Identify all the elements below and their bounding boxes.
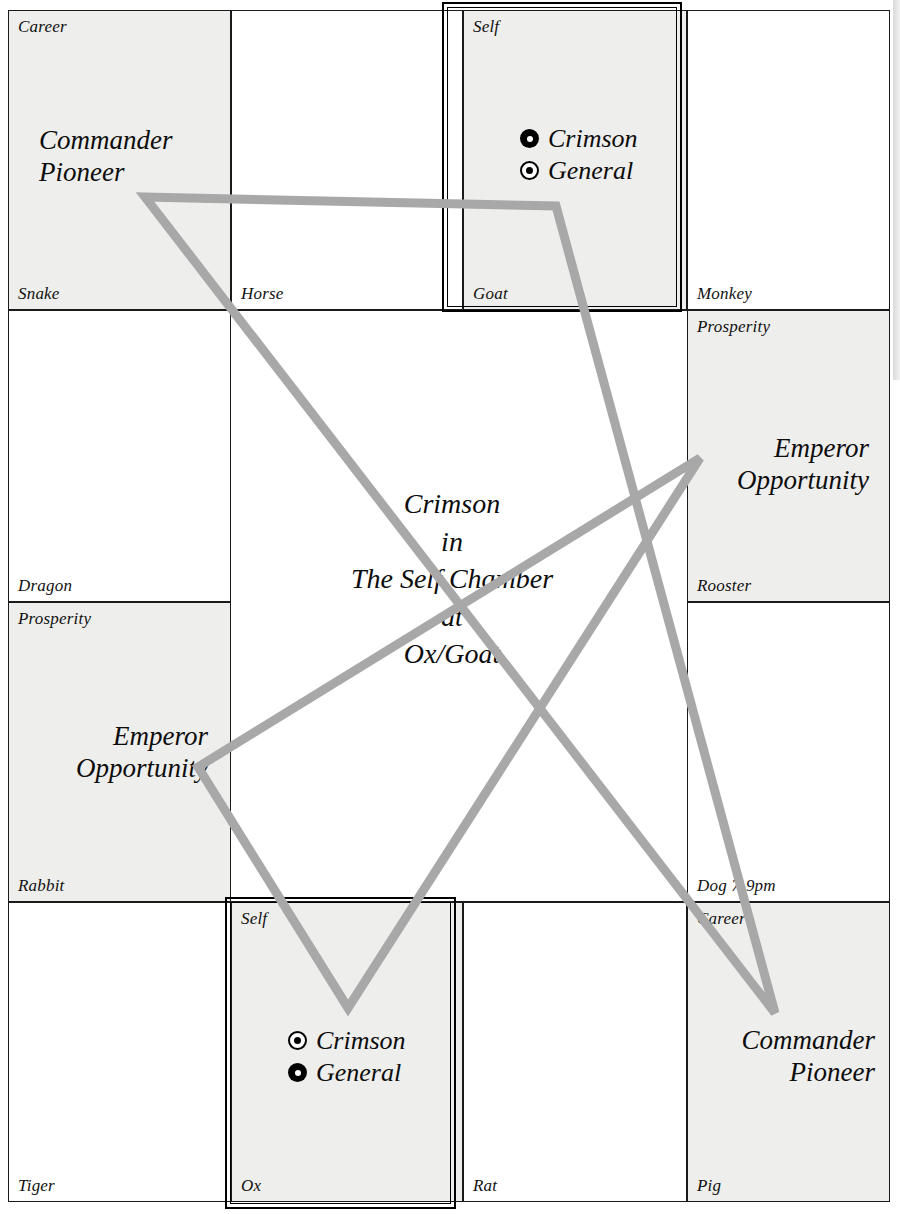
palace-stars-pig: Commander Pioneer [688, 1025, 889, 1089]
marker-label: Crimson [548, 123, 638, 155]
palace-bottom-label-pig: Pig [697, 1176, 721, 1196]
palace-cell-snake[interactable]: Career Commander Pioneer Snake [8, 10, 231, 310]
palace-cell-dragon[interactable]: Dragon [8, 310, 231, 602]
palace-top-label-rooster: Prosperity [697, 317, 770, 337]
palace-stars-rooster: Emperor Opportunity [688, 433, 889, 497]
palace-top-label-rabbit: Prosperity [18, 609, 91, 629]
palace-cell-rabbit[interactable]: Prosperity Emperor Opportunity Rabbit [8, 602, 231, 902]
palace-bottom-label-ox: Ox [241, 1176, 261, 1196]
palace-cell-tiger[interactable]: Tiger [8, 902, 231, 1202]
marker-filled-ring-icon [520, 129, 539, 148]
marker-label: General [548, 155, 633, 187]
palace-bottom-label-rat: Rat [473, 1176, 497, 1196]
palace-bottom-label-monkey: Monkey [697, 284, 752, 304]
palace-bottom-label-rabbit: Rabbit [18, 876, 65, 896]
palace-bottom-label-tiger: Tiger [18, 1176, 55, 1196]
palace-top-label-ox: Self [241, 909, 267, 929]
marker-outline-dot-icon [520, 161, 539, 180]
palace-stars-rabbit: Emperor Opportunity [9, 721, 230, 785]
palace-cell-dog[interactable]: Dog 7-9pm [687, 602, 890, 902]
marker-filled-ring-icon [288, 1063, 307, 1082]
palace-bottom-label-rooster: Rooster [697, 576, 751, 596]
palace-cell-rooster[interactable]: Prosperity Emperor Opportunity Rooster [687, 310, 890, 602]
page-edge-shadow [893, 0, 900, 380]
page-edge-white [893, 380, 900, 1214]
palace-bottom-label-goat: Goat [473, 284, 508, 304]
palace-cell-horse[interactable]: Horse [231, 10, 463, 310]
palace-top-label-pig: Career [697, 909, 746, 929]
palace-bottom-label-dragon: Dragon [18, 576, 72, 596]
palace-bottom-label-horse: Horse [241, 284, 284, 304]
marker-row: Crimson [232, 1025, 462, 1057]
marker-row: General [464, 155, 686, 187]
palace-top-label-snake: Career [18, 17, 67, 37]
marker-row: Crimson [464, 123, 686, 155]
palace-cell-monkey[interactable]: Monkey [687, 10, 890, 310]
palace-bottom-label-dog: Dog 7-9pm [697, 876, 776, 896]
palace-cell-pig[interactable]: Career Commander Pioneer Pig [687, 902, 890, 1202]
palace-bottom-label-snake: Snake [18, 284, 60, 304]
marker-row: General [232, 1057, 462, 1089]
palace-markers-goat: Crimson General [464, 123, 686, 186]
chart-page: Career Commander Pioneer Snake Horse Sel… [0, 0, 900, 1214]
marker-outline-dot-icon [288, 1031, 307, 1050]
palace-cell-rat[interactable]: Rat [463, 902, 687, 1202]
palace-markers-ox: Crimson General [232, 1025, 462, 1088]
palace-cell-ox[interactable]: Self Crimson General Ox [231, 902, 463, 1202]
center-summary-text: Crimson in The Self Chamber at Ox/Goat [262, 485, 642, 673]
palace-top-label-goat: Self [473, 17, 499, 37]
marker-label: General [316, 1057, 401, 1089]
marker-label: Crimson [316, 1025, 406, 1057]
palace-stars-snake: Commander Pioneer [9, 125, 230, 189]
palace-cell-goat[interactable]: Self Crimson General Goat [463, 10, 687, 310]
